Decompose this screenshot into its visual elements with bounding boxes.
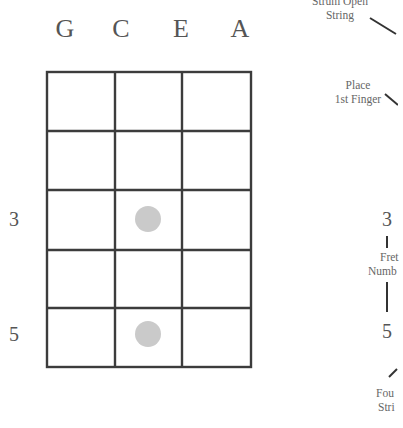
fret-number-top: 3: [382, 208, 392, 231]
fret-label-line1: Fret: [368, 250, 403, 264]
string-label-c: C: [106, 14, 136, 44]
fret-number-bottom: 5: [382, 320, 392, 343]
fret-number-5: 5: [4, 323, 24, 346]
string-label-g: G: [50, 14, 80, 44]
strum-arrow-icon: [368, 14, 398, 36]
finger-arrow-icon: [384, 93, 398, 107]
finger-dot-c-fret5: [135, 321, 161, 347]
string-label-e: E: [166, 14, 196, 44]
fourth-line1: Fou: [376, 386, 403, 400]
fourth-line2: Stri: [376, 400, 403, 414]
fret-number-label: Fret Numb: [368, 250, 403, 278]
fretboard-lines: [47, 72, 251, 367]
finger-dot-c-fret3: [135, 206, 161, 232]
fret-tick-top: [386, 236, 388, 248]
chord-grid: [47, 72, 251, 367]
string-label-a: A: [225, 14, 255, 44]
fourth-string-arrow-icon: [388, 368, 398, 378]
strum-open-line1: Strum Open: [300, 0, 380, 8]
fret-number-3: 3: [4, 208, 24, 231]
fourth-string-label: Fou Stri: [376, 386, 403, 414]
fret-label-line2: Numb: [368, 264, 403, 278]
place-line1: Place: [318, 78, 398, 92]
fret-tick-bottom: [386, 282, 388, 312]
